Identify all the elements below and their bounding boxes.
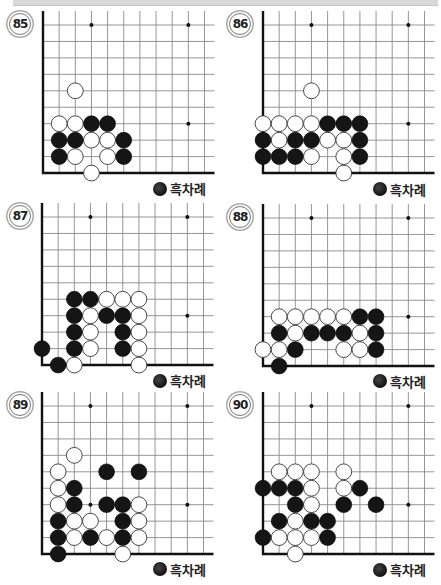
black-stone: [320, 116, 336, 132]
black-stone: [115, 513, 131, 529]
black-stone-icon: [153, 562, 167, 576]
white-stone: [287, 116, 303, 132]
white-stone: [304, 308, 320, 324]
go-board-diagram: [42, 392, 214, 554]
black-stone: [98, 496, 114, 512]
star-point: [309, 216, 313, 220]
black-stone: [255, 530, 271, 546]
white-stone: [67, 116, 83, 132]
white-stone: [98, 529, 114, 545]
white-stone: [287, 308, 303, 324]
white-stone: [304, 116, 320, 132]
white-stone: [271, 530, 287, 546]
black-stone: [271, 149, 287, 165]
black-stone: [352, 133, 368, 149]
turn-label-text: 흑차례: [390, 560, 426, 579]
black-stone: [255, 149, 271, 165]
black-stone: [115, 149, 131, 165]
black-stone: [304, 133, 320, 149]
star-point: [406, 404, 410, 408]
problem-number-badge: 88: [229, 206, 251, 228]
white-stone: [66, 529, 82, 545]
white-stone: [82, 324, 98, 340]
black-stone: [271, 514, 287, 530]
star-point: [406, 122, 410, 126]
white-stone: [131, 496, 147, 512]
black-stone: [271, 325, 287, 341]
star-point: [185, 215, 189, 219]
black-stone: [131, 464, 147, 480]
problem-number-badge: 87: [9, 205, 31, 227]
black-stone: [66, 308, 82, 324]
white-stone: [131, 308, 147, 324]
black-stone: [287, 481, 303, 497]
white-stone: [82, 341, 98, 357]
black-stone: [98, 464, 114, 480]
white-stone: [336, 166, 352, 182]
star-point: [89, 23, 93, 27]
turn-indicator: 흑차례: [373, 560, 426, 579]
black-stone: [115, 132, 131, 148]
star-point: [88, 502, 92, 506]
black-stone: [320, 514, 336, 530]
black-stone: [50, 513, 66, 529]
white-stone: [271, 116, 287, 132]
star-point: [309, 23, 313, 27]
star-point: [185, 502, 189, 506]
white-stone: [50, 480, 66, 496]
black-stone: [368, 325, 384, 341]
black-stone: [352, 116, 368, 132]
black-stone: [82, 291, 98, 307]
star-point: [309, 404, 313, 408]
white-stone: [336, 481, 352, 497]
black-stone: [368, 308, 384, 324]
white-stone: [131, 291, 147, 307]
go-board-diagram: [263, 392, 435, 554]
black-stone: [51, 149, 67, 165]
problem-number-badge: 90: [229, 394, 251, 416]
go-board-diagram: [263, 204, 435, 366]
white-stone: [99, 149, 115, 165]
white-stone: [131, 341, 147, 357]
turn-indicator: 흑차례: [153, 560, 206, 579]
black-stone-icon: [153, 182, 167, 196]
star-point: [185, 314, 189, 318]
white-stone: [336, 464, 352, 480]
black-stone: [271, 481, 287, 497]
star-point: [88, 404, 92, 408]
white-stone: [131, 357, 147, 373]
black-stone: [99, 116, 115, 132]
white-stone: [352, 341, 368, 357]
white-stone: [66, 513, 82, 529]
white-stone: [304, 530, 320, 546]
white-stone: [336, 133, 352, 149]
black-stone: [51, 132, 67, 148]
white-stone: [99, 132, 115, 148]
white-stone: [352, 325, 368, 341]
black-stone: [115, 529, 131, 545]
white-stone: [320, 133, 336, 149]
star-point: [186, 122, 190, 126]
black-stone: [368, 497, 384, 513]
white-stone: [66, 447, 82, 463]
white-stone: [271, 464, 287, 480]
black-stone: [115, 496, 131, 512]
white-stone: [304, 464, 320, 480]
white-stone: [255, 341, 271, 357]
black-stone: [255, 481, 271, 497]
white-stone: [115, 546, 131, 562]
black-stone: [50, 529, 66, 545]
white-stone: [304, 497, 320, 513]
problem-number-badge: 86: [229, 13, 251, 35]
star-point: [406, 216, 410, 220]
star-point: [186, 23, 190, 27]
go-problem-panel-87: 87 흑차례: [0, 195, 220, 390]
white-stone: [131, 529, 147, 545]
white-stone: [320, 308, 336, 324]
white-stone: [115, 291, 131, 307]
black-stone: [352, 481, 368, 497]
white-stone: [51, 116, 67, 132]
go-problem-panel-90: 90 흑차례: [220, 385, 440, 580]
white-stone: [287, 530, 303, 546]
black-stone: [115, 341, 131, 357]
